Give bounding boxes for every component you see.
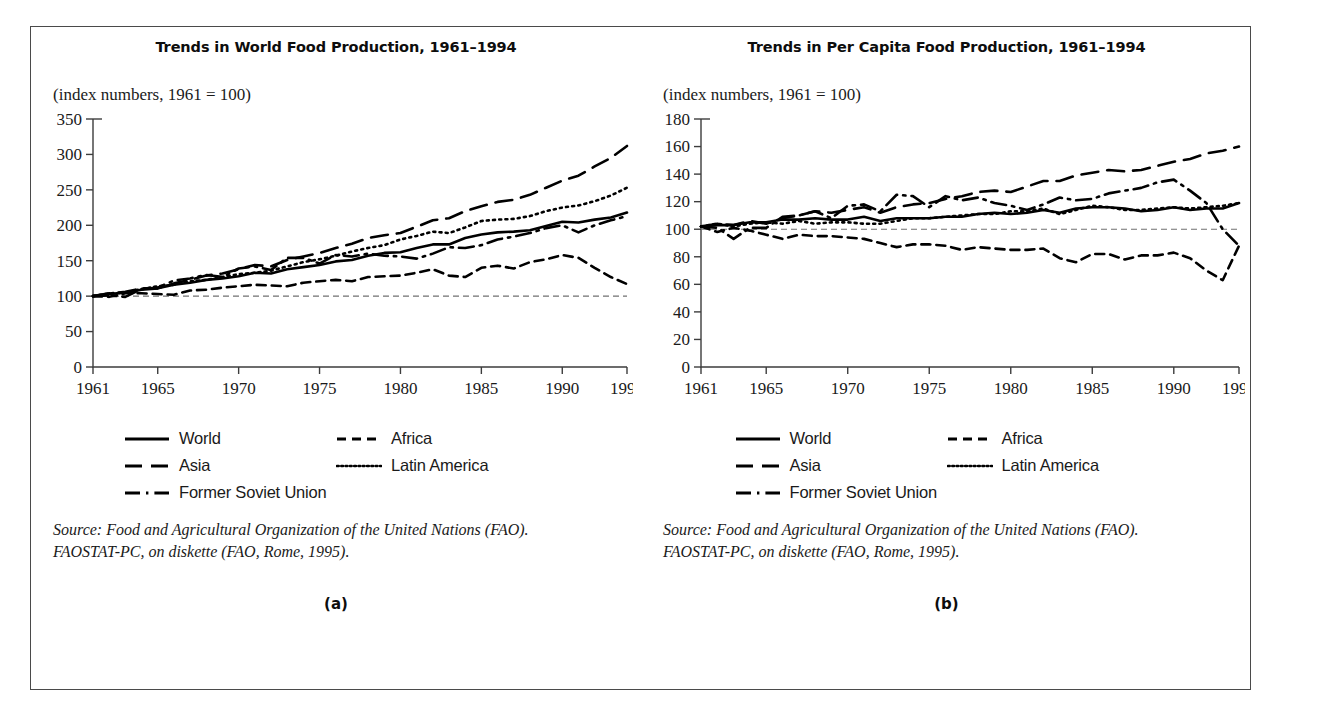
svg-text:1990: 1990 [545, 379, 579, 398]
legend-swatch-asia-icon [124, 459, 170, 473]
svg-text:1994: 1994 [1222, 379, 1245, 398]
panel-b-title: Trends in Per Capita Food Production, 19… [641, 39, 1252, 55]
svg-text:60: 60 [673, 275, 690, 294]
panel-a-title: Trends in World Food Production, 1961–19… [31, 39, 641, 55]
panel-b-svg: 0204060801001201401601801961196519701975… [653, 111, 1245, 411]
source-line-1: Source: Food and Agricultural Organizati… [663, 519, 1223, 541]
svg-text:350: 350 [57, 111, 83, 129]
panel-b-legend: WorldAfricaAsiaLatin AmericaFormer Sovie… [641, 425, 1252, 506]
legend-row: WorldAfrica [124, 425, 548, 452]
legend-label-latin-america: Latin America [1002, 456, 1099, 475]
legend-row: Former Soviet Union [735, 479, 1159, 506]
series-line-africa [93, 255, 627, 297]
svg-text:20: 20 [673, 330, 690, 349]
legend-row: WorldAfrica [735, 425, 1159, 452]
svg-text:1994: 1994 [610, 379, 633, 398]
svg-text:40: 40 [673, 303, 690, 322]
source-line-2: FAOSTAT-PC, on diskette (FAO, Rome, 1995… [53, 541, 613, 563]
series-line-africa [701, 226, 1239, 280]
svg-text:1980: 1980 [994, 379, 1028, 398]
legend-label-world: World [790, 429, 832, 448]
legend-label-former-soviet-union: Former Soviet Union [790, 483, 938, 502]
svg-text:150: 150 [57, 252, 83, 271]
panel-b-plot-area: 0204060801001201401601801961196519701975… [653, 111, 1245, 411]
source-line-2: FAOSTAT-PC, on diskette (FAO, Rome, 1995… [663, 541, 1223, 563]
legend-row: AsiaLatin America [735, 452, 1159, 479]
panel-a-subtitle: (index numbers, 1961 = 100) [53, 85, 251, 105]
panel-a-source-note: Source: Food and Agricultural Organizati… [53, 519, 613, 563]
legend-swatch-latin-america-icon [336, 459, 382, 473]
svg-text:1970: 1970 [831, 379, 865, 398]
panel-a-svg: 0501001502002503003501961196519701975198… [41, 111, 633, 411]
svg-text:1965: 1965 [749, 379, 783, 398]
svg-text:1985: 1985 [1075, 379, 1109, 398]
chart-panel-b: Trends in Per Capita Food Production, 19… [641, 27, 1252, 689]
legend-label-africa: Africa [1002, 429, 1043, 448]
series-line-asia [93, 146, 627, 296]
svg-text:200: 200 [57, 216, 83, 235]
legend-row: AsiaLatin America [124, 452, 548, 479]
legend-swatch-asia-icon [735, 459, 781, 473]
svg-text:180: 180 [665, 111, 691, 129]
svg-text:1980: 1980 [383, 379, 417, 398]
panel-b-source-note: Source: Food and Agricultural Organizati… [663, 519, 1223, 563]
legend-swatch-former-soviet-union-icon [735, 486, 781, 500]
legend-label-former-soviet-union: Former Soviet Union [179, 483, 327, 502]
panel-b-label: (b) [641, 595, 1252, 613]
legend-item-world[interactable]: World [124, 429, 336, 448]
figure-frame: Trends in World Food Production, 1961–19… [30, 26, 1251, 690]
svg-text:100: 100 [57, 287, 83, 306]
legend-swatch-latin-america-icon [947, 459, 993, 473]
legend-item-former-soviet-union[interactable]: Former Soviet Union [735, 483, 947, 502]
svg-text:1965: 1965 [141, 379, 175, 398]
panel-a-legend: WorldAfricaAsiaLatin AmericaFormer Sovie… [31, 425, 641, 506]
legend-item-world[interactable]: World [735, 429, 947, 448]
legend-item-asia[interactable]: Asia [124, 456, 336, 475]
svg-text:1985: 1985 [464, 379, 498, 398]
svg-text:250: 250 [57, 181, 83, 200]
svg-text:50: 50 [65, 322, 82, 341]
panel-a-plot-area: 0501001502002503003501961196519701975198… [41, 111, 633, 411]
legend-swatch-former-soviet-union-icon [124, 486, 170, 500]
legend-item-asia[interactable]: Asia [735, 456, 947, 475]
legend-label-asia: Asia [790, 456, 821, 475]
legend-row: Former Soviet Union [124, 479, 548, 506]
svg-text:160: 160 [665, 137, 691, 156]
svg-text:1961: 1961 [76, 379, 110, 398]
svg-text:1975: 1975 [303, 379, 337, 398]
legend-label-latin-america: Latin America [391, 456, 488, 475]
legend-item-africa[interactable]: Africa [947, 429, 1159, 448]
legend-item-former-soviet-union[interactable]: Former Soviet Union [124, 483, 336, 502]
svg-text:1990: 1990 [1157, 379, 1191, 398]
legend-swatch-africa-icon [336, 432, 382, 446]
svg-text:120: 120 [665, 192, 691, 211]
legend-swatch-world-icon [124, 432, 170, 446]
panel-b-subtitle: (index numbers, 1961 = 100) [663, 85, 861, 105]
svg-text:1975: 1975 [912, 379, 946, 398]
svg-text:1961: 1961 [684, 379, 718, 398]
legend-swatch-africa-icon [947, 432, 993, 446]
legend-item-latin-america[interactable]: Latin America [336, 456, 548, 475]
legend-item-latin-america[interactable]: Latin America [947, 456, 1159, 475]
legend-label-africa: Africa [391, 429, 432, 448]
svg-text:300: 300 [57, 145, 83, 164]
legend-label-asia: Asia [179, 456, 210, 475]
svg-text:0: 0 [682, 358, 691, 377]
panel-a-label: (a) [31, 595, 641, 613]
series-line-former-soviet-union [701, 180, 1239, 246]
svg-text:140: 140 [665, 165, 691, 184]
legend-label-world: World [179, 429, 221, 448]
svg-text:0: 0 [74, 358, 83, 377]
legend-swatch-world-icon [735, 432, 781, 446]
legend-item-africa[interactable]: Africa [336, 429, 548, 448]
svg-text:80: 80 [673, 248, 690, 267]
svg-text:1970: 1970 [222, 379, 256, 398]
source-line-1: Source: Food and Agricultural Organizati… [53, 519, 613, 541]
svg-text:100: 100 [665, 220, 691, 239]
chart-panel-a: Trends in World Food Production, 1961–19… [31, 27, 641, 689]
